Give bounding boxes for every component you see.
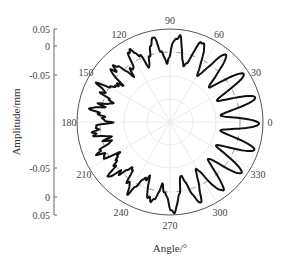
angle-label-270: 270 — [163, 220, 178, 231]
y-axis-title: Amplitude/mm — [10, 88, 22, 156]
angle-label-90: 90 — [165, 15, 175, 26]
angle-label-300: 300 — [213, 207, 228, 218]
amp-tick-label-6: 0.05 — [33, 210, 51, 221]
amp-tick-label-1: 0.05 — [33, 24, 51, 35]
angle-label-210: 210 — [77, 169, 92, 180]
amp-tick-label-2: 0 — [45, 41, 50, 52]
amp-tick-label-4: -0.05 — [29, 163, 50, 174]
angle-label-120: 120 — [112, 29, 127, 40]
amp-tick-label-3: -0.05 — [29, 70, 50, 81]
polar-chart: 0 30 60 90 120 150 180 210 240 270 300 3… — [0, 0, 287, 260]
angle-label-330: 330 — [251, 169, 266, 180]
angle-label-180: 180 — [62, 117, 77, 128]
angle-label-60: 60 — [214, 29, 224, 40]
angle-label-240: 240 — [114, 207, 129, 218]
angle-label-150: 150 — [79, 67, 94, 78]
x-axis-title: Angle/° — [153, 242, 187, 254]
angle-label-30: 30 — [251, 67, 261, 78]
amp-tick-label-5: 0 — [45, 192, 50, 203]
angle-label-0: 0 — [268, 117, 273, 128]
